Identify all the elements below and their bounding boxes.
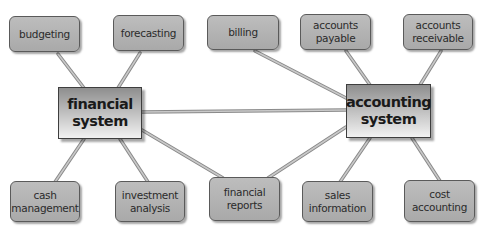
node-label: accounts receivable [412,19,463,45]
node-budgeting: budgeting [9,16,80,52]
node-accounts-receivable: accounts receivable [403,14,473,50]
node-label: accounts payable [313,19,358,45]
node-label: sales information [309,189,366,215]
node-label: cash management [11,189,78,215]
node-label: investment analysis [122,189,178,215]
hub-financial-system: financial system [58,87,142,139]
node-accounts-payable: accounts payable [300,14,371,50]
node-financial-reports: financial reports [209,177,280,221]
node-label: financial reports [224,186,266,212]
node-cost-accounting: cost accounting [404,180,475,222]
hub-label: financial system [67,96,133,130]
node-sales-information: sales information [302,181,373,222]
node-cash-management: cash management [10,181,80,222]
node-label: cost accounting [412,188,467,214]
systems-diagram: budgeting forecasting billing accounts p… [0,0,484,228]
node-forecasting: forecasting [113,15,184,51]
node-billing: billing [207,15,279,50]
node-label: budgeting [19,28,70,41]
hub-label: accounting system [346,94,431,128]
node-label: forecasting [121,27,176,40]
node-label: billing [228,26,258,39]
hub-accounting-system: accounting system [346,84,431,138]
node-investment-analysis: investment analysis [115,181,185,222]
